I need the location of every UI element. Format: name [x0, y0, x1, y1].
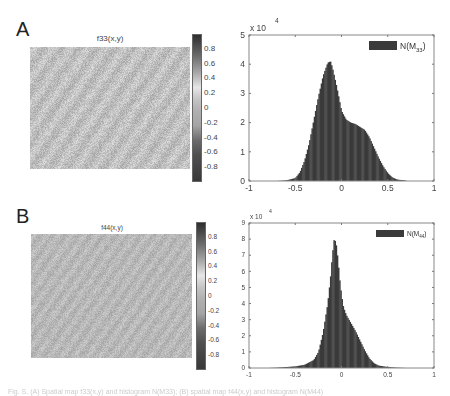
histogram-plots: -1-0.500.51012345x 104N(M33) -1-0.500.51…: [0, 0, 450, 396]
y-tick-label: 0: [240, 176, 245, 186]
x-tick-label: -1: [245, 183, 253, 193]
x-tick-label: -0.5: [290, 371, 302, 378]
y-tick-label: 5: [241, 284, 245, 291]
y-tick-label: 9: [241, 219, 245, 226]
histogram-m44: -1-0.500.510123456789x 104N(M44): [241, 208, 436, 378]
y-tick-label: 6: [241, 268, 245, 275]
y-tick-label: 0: [241, 364, 245, 371]
x-tick-label: 1: [432, 371, 436, 378]
legend-swatch: [369, 41, 397, 50]
y-tick-label: 3: [240, 88, 245, 98]
y-tick-label: 4: [241, 300, 245, 307]
figure-caption: Fig. S. (A) Spatial map f33(x,y) and his…: [8, 388, 323, 395]
y-tick-label: 7: [241, 251, 245, 258]
y-tick-label: 1: [240, 147, 245, 157]
y-tick-label: 3: [241, 316, 245, 323]
y-multiplier-exponent: 4: [275, 17, 279, 24]
legend-swatch: [376, 230, 404, 237]
y-tick-label: 2: [240, 117, 245, 127]
x-tick-label: 0: [339, 183, 344, 193]
y-tick-label: 8: [241, 235, 245, 242]
x-tick-label: -0.5: [288, 183, 303, 193]
x-tick-label: -1: [246, 371, 252, 378]
histogram-m33: -1-0.500.51012345x 104N(M33): [240, 17, 436, 193]
x-tick-label: 0: [340, 371, 344, 378]
y-multiplier-exponent: 4: [269, 208, 272, 214]
y-multiplier-label: x 10: [250, 213, 263, 220]
y-tick-label: 1: [241, 348, 245, 355]
y-tick-label: 4: [240, 59, 245, 69]
x-tick-label: 0.5: [383, 371, 392, 378]
y-multiplier-label: x 10: [250, 23, 266, 33]
legend-label: N(M44): [407, 230, 427, 239]
legend-label: N(M33): [400, 41, 426, 53]
x-tick-label: 1: [432, 183, 437, 193]
y-tick-label: 5: [240, 30, 245, 40]
x-tick-label: 0.5: [382, 183, 394, 193]
y-tick-label: 2: [241, 332, 245, 339]
